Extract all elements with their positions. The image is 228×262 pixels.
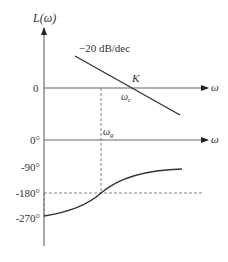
magnitude-line <box>75 56 180 115</box>
tick-label-minus-270: -270° <box>15 212 40 224</box>
y-axis-label: L(ω) <box>32 11 56 25</box>
point-k-label: K <box>131 72 140 84</box>
magnitude-zero-label: 0 <box>33 82 39 94</box>
gain-crossover-label: ωc <box>121 91 132 104</box>
tick-label-minus-180: -180° <box>15 187 40 199</box>
tick-label-0: 0° <box>30 134 40 146</box>
phase-crossover-label: ωg <box>103 126 114 139</box>
magnitude-omega-label: ω <box>211 81 219 93</box>
slope-label: −20 dB/dec <box>79 42 130 54</box>
tick-label-minus-90: -90° <box>21 161 40 173</box>
phase-curve <box>44 169 182 216</box>
bode-diagram: L(ω) 0 ω −20 dB/dec K ωc ω ωg 0° -90° -1… <box>0 0 228 262</box>
phase-omega-label: ω <box>211 133 219 145</box>
